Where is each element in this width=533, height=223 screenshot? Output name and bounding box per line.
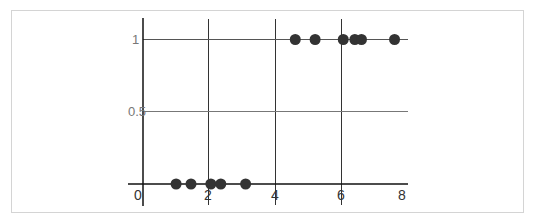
data-point (185, 179, 196, 190)
data-point (240, 179, 251, 190)
data-point (205, 179, 216, 190)
data-point (310, 34, 321, 45)
x-tick-6: 6 (337, 187, 345, 203)
y-tick-1: 1 (132, 32, 139, 47)
scatter-chart: 0 2 4 6 8 1 0.5 (0, 0, 533, 223)
data-point (290, 34, 301, 45)
data-point (356, 34, 367, 45)
x-tick-0: 0 (134, 187, 142, 203)
data-point (338, 34, 349, 45)
x-tick-8: 8 (398, 187, 406, 203)
data-point (171, 179, 182, 190)
grid-lines (143, 19, 408, 205)
data-point (389, 34, 400, 45)
x-tick-4: 4 (271, 187, 279, 203)
data-point (215, 179, 226, 190)
y-tick-0-5: 0.5 (128, 104, 146, 119)
